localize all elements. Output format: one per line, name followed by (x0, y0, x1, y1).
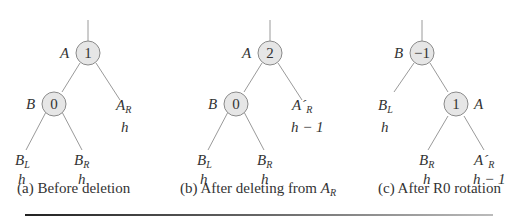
subtree-label: BL (378, 98, 393, 115)
subtree-label: BR (419, 153, 434, 170)
subtree-label: AR (116, 98, 131, 115)
balance-factor: 2 (258, 46, 282, 61)
subtree-label: BR (257, 153, 272, 170)
node-name: B (26, 97, 35, 112)
node-name: A (242, 46, 251, 61)
subtree-height: h (121, 120, 129, 135)
node-name: B (394, 46, 403, 61)
subtree-label: A´R (474, 153, 494, 170)
balance-factor: 1 (76, 46, 100, 61)
bottom-rule (25, 214, 493, 216)
node-name: B (208, 97, 217, 112)
caption: (a) Before deletion (17, 180, 130, 197)
subtree-label: BR (74, 153, 89, 170)
caption: (b) After deleting from AR (180, 180, 336, 198)
subtree-height: h − 1 (291, 120, 324, 135)
caption: (c) After R0 rotation (378, 180, 501, 197)
balance-factor: 0 (224, 97, 248, 112)
node-name: A (60, 46, 69, 61)
subtree-label: BL (15, 153, 30, 170)
subtree-label: BL (197, 153, 212, 170)
balance-factor: −1 (410, 46, 434, 61)
node-name: A (474, 97, 483, 112)
subtree-height: h (381, 120, 389, 135)
subtree-label: A´R (292, 98, 312, 115)
balance-factor: 0 (42, 97, 66, 112)
balance-factor: 1 (444, 97, 468, 112)
